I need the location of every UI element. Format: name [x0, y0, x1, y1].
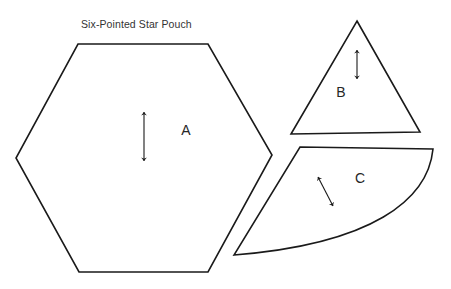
pattern-diagram-canvas: Six-Pointed Star Pouch A B C	[0, 0, 451, 289]
triangle-outline-b	[291, 21, 420, 134]
pattern-piece-b[interactable]: B	[291, 21, 420, 134]
piece-label-b: B	[336, 84, 345, 100]
pattern-piece-a[interactable]: A	[16, 44, 272, 272]
piece-label-c: C	[355, 170, 365, 186]
pattern-pieces-svg: A B C	[0, 0, 451, 289]
piece-label-a: A	[181, 122, 191, 138]
